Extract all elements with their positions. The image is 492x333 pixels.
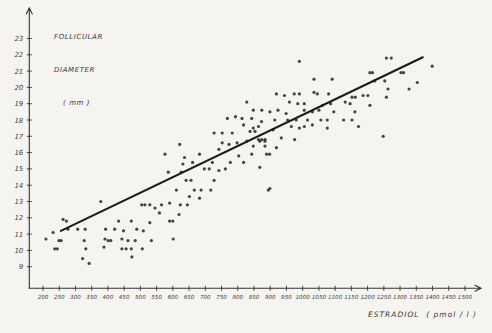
data-point (371, 71, 374, 74)
data-point (120, 247, 123, 250)
data-point (130, 255, 133, 258)
data-point (242, 123, 245, 126)
y-axis-title-line3: ( mm ) (54, 98, 103, 109)
data-point (160, 203, 163, 206)
x-tick-label: 400 (103, 294, 114, 300)
data-point (209, 189, 212, 192)
data-point (200, 189, 203, 192)
data-point (76, 228, 79, 231)
data-point (126, 239, 129, 242)
data-point (103, 237, 106, 240)
data-point (354, 96, 357, 99)
data-point (263, 138, 266, 141)
data-point (368, 104, 371, 107)
data-point (303, 125, 306, 128)
x-tick-label: 1050 (312, 294, 327, 300)
data-point (172, 237, 175, 240)
y-tick-label: 22 (14, 51, 23, 59)
data-point (252, 109, 255, 112)
data-point (81, 257, 84, 260)
data-point (83, 239, 86, 242)
data-point (203, 167, 206, 170)
data-point (260, 109, 263, 112)
data-point (383, 79, 386, 82)
data-point (319, 118, 322, 121)
y-tick-label: 21 (14, 68, 23, 76)
data-point (125, 247, 128, 250)
data-point (268, 187, 271, 190)
x-tick-label: 1000 (296, 294, 311, 300)
x-axis-line (29, 285, 481, 291)
data-point (390, 57, 393, 60)
data-point (257, 125, 260, 128)
x-axis-title: ESTRADIOL ( pmol / l ) (368, 310, 477, 319)
data-point (104, 228, 107, 231)
data-point (326, 127, 329, 130)
data-point (275, 146, 278, 149)
y-tick-label: 20 (14, 84, 23, 92)
y-tick-label: 23 (14, 35, 23, 43)
data-point (189, 179, 192, 182)
data-point (273, 118, 276, 121)
data-point (168, 202, 171, 205)
data-point (317, 109, 320, 112)
data-point (229, 161, 232, 164)
data-point (285, 112, 288, 115)
data-point (65, 220, 68, 223)
x-tick-label: 850 (249, 294, 260, 300)
y-axis-title-line2: DIAMETER (54, 65, 103, 76)
data-point (280, 136, 283, 139)
data-point (213, 179, 216, 182)
x-tick-label: 1300 (393, 294, 408, 300)
data-point (331, 78, 334, 81)
data-point (122, 229, 125, 232)
y-tick-label: 18 (14, 117, 23, 125)
data-point (227, 143, 230, 146)
data-point (193, 189, 196, 192)
data-point (344, 101, 347, 104)
data-point (298, 60, 301, 63)
y-axis-title-line1: FOLLICULAR (54, 32, 103, 43)
data-point (99, 200, 102, 203)
y-tick-label: 17 (14, 133, 23, 141)
data-point (213, 131, 216, 134)
data-point (263, 145, 266, 148)
data-point (134, 239, 137, 242)
data-point (258, 166, 261, 169)
y-tick-label: 10 (14, 247, 23, 255)
data-point (316, 92, 319, 95)
data-point (148, 203, 151, 206)
x-tick-label: 800 (232, 294, 243, 300)
x-tick-label: 1400 (425, 294, 440, 300)
data-point (88, 262, 91, 265)
data-point (198, 197, 201, 200)
data-point (268, 153, 271, 156)
data-point (231, 131, 234, 134)
x-tick-label: 350 (86, 294, 97, 300)
data-point (252, 145, 255, 148)
x-tick-label: 1100 (328, 294, 343, 300)
x-tick-label: 750 (216, 294, 227, 300)
data-point (168, 220, 171, 223)
data-point (268, 110, 271, 113)
data-point (211, 161, 214, 164)
data-point (188, 195, 191, 198)
y-tick-label: 13 (14, 198, 23, 206)
data-point (252, 127, 255, 130)
data-point (217, 148, 220, 151)
data-point (56, 247, 59, 250)
data-point (221, 141, 224, 144)
data-point (296, 102, 299, 105)
data-point (311, 123, 314, 126)
data-point (44, 237, 47, 240)
data-point (186, 203, 189, 206)
y-tick-label: 12 (14, 214, 23, 222)
data-point (237, 154, 240, 157)
data-point (224, 167, 227, 170)
data-point (293, 138, 296, 141)
data-point (245, 101, 248, 104)
data-point (179, 203, 182, 206)
x-tick-label: 200 (38, 294, 49, 300)
data-point (332, 110, 335, 113)
data-point (298, 92, 301, 95)
